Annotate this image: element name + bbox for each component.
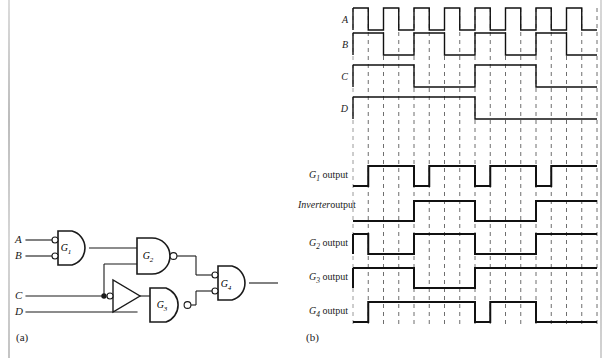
waveform-g1-output: [353, 166, 597, 186]
waveform-inverter-output: [353, 201, 597, 221]
timing-diagram: [0, 0, 608, 358]
waveform-g2-output: [353, 234, 597, 254]
panel-b-caption: (b): [306, 331, 319, 343]
waveform-a: [353, 8, 597, 30]
waveform-g3-output: [353, 268, 597, 288]
waveform-d: [353, 97, 597, 119]
waveform-c: [353, 65, 597, 87]
waveform-g4-output: [353, 302, 597, 322]
waveform-b: [353, 33, 597, 55]
figure-root: G1 G2 G3: [0, 0, 608, 358]
